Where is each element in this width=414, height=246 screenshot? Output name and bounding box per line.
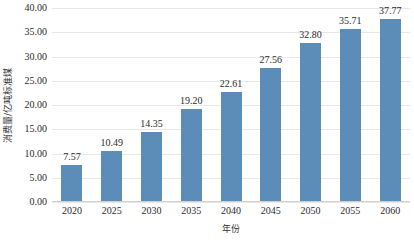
bar-slot: 19.20 xyxy=(171,8,211,202)
y-axis-tick-labels: 40.0035.0030.0025.0020.0015.0010.005.000… xyxy=(14,0,50,202)
y-axis-tick-label: 35.00 xyxy=(25,27,48,37)
y-axis-tick-label: 25.00 xyxy=(25,76,48,86)
bar-value-label: 35.71 xyxy=(339,15,362,26)
y-axis-tick-label: 30.00 xyxy=(25,52,48,62)
y-axis-tick-label: 0.00 xyxy=(30,197,48,207)
y-axis-tick-label: 15.00 xyxy=(25,124,48,134)
x-axis-tick-label: 2055 xyxy=(330,204,370,220)
x-axis-tick-label: 2035 xyxy=(171,204,211,220)
bar-value-label: 10.49 xyxy=(100,137,123,148)
y-axis-tick-label: 20.00 xyxy=(25,100,48,110)
bar[interactable]: 14.35 xyxy=(141,132,162,202)
bar-chart: 消费量/亿吨标准煤 40.0035.0030.0025.0020.0015.00… xyxy=(0,0,414,246)
x-axis-tick-label: 2020 xyxy=(52,204,92,220)
bar-slot: 14.35 xyxy=(132,8,172,202)
bar-value-label: 27.56 xyxy=(260,54,283,65)
bar-value-label: 32.80 xyxy=(299,29,322,40)
bar-slot: 32.80 xyxy=(291,8,331,202)
bar-value-label: 19.20 xyxy=(180,95,203,106)
x-axis-tick-label: 2060 xyxy=(370,204,410,220)
bar[interactable]: 19.20 xyxy=(181,109,202,202)
y-axis-title-text: 消费量/亿吨标准煤 xyxy=(2,67,15,142)
x-axis-tick-label: 2025 xyxy=(92,204,132,220)
x-axis-tick-label: 2040 xyxy=(211,204,251,220)
x-axis-tick-label: 2030 xyxy=(132,204,172,220)
bar[interactable]: 22.61 xyxy=(221,92,242,202)
plot-area: 7.5710.4914.3519.2022.6127.5632.8035.713… xyxy=(52,8,410,202)
y-axis-tick-label: 40.00 xyxy=(25,3,48,13)
bar-series: 7.5710.4914.3519.2022.6127.5632.8035.713… xyxy=(52,8,410,202)
bar[interactable]: 27.56 xyxy=(260,68,281,202)
bar-slot: 35.71 xyxy=(330,8,370,202)
bar[interactable]: 37.77 xyxy=(380,19,401,202)
bar-value-label: 7.57 xyxy=(63,151,81,162)
x-axis-tick-labels: 202020252030203520402045205020552060 xyxy=(52,204,410,220)
bar[interactable]: 10.49 xyxy=(101,151,122,202)
bar[interactable]: 32.80 xyxy=(300,43,321,202)
gridline xyxy=(52,202,410,203)
y-axis-tick-label: 5.00 xyxy=(30,173,48,183)
x-axis-tick-label: 2050 xyxy=(291,204,331,220)
bar[interactable]: 7.57 xyxy=(61,165,82,202)
bar-value-label: 14.35 xyxy=(140,118,163,129)
bar[interactable]: 35.71 xyxy=(340,29,361,202)
y-axis-tick-label: 10.00 xyxy=(25,149,48,159)
bar-value-label: 37.77 xyxy=(379,5,402,16)
bar-slot: 37.77 xyxy=(370,8,410,202)
x-axis-line xyxy=(52,201,410,202)
bar-value-label: 22.61 xyxy=(220,78,243,89)
bar-slot: 27.56 xyxy=(251,8,291,202)
bar-slot: 10.49 xyxy=(92,8,132,202)
x-axis-tick-label: 2045 xyxy=(251,204,291,220)
bar-slot: 7.57 xyxy=(52,8,92,202)
x-axis-title: 年份 xyxy=(52,222,410,235)
bar-slot: 22.61 xyxy=(211,8,251,202)
